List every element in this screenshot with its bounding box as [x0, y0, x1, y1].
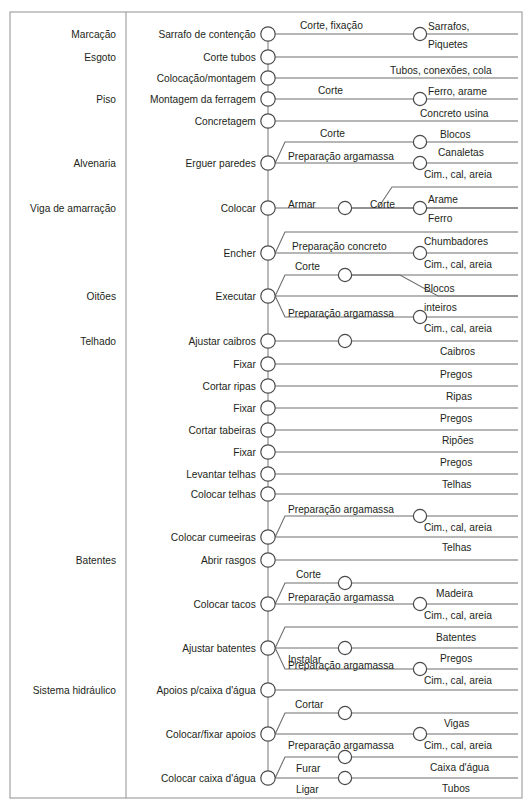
task-label: Cortar ripas [203, 381, 256, 392]
material-label: Ferro [428, 213, 453, 224]
operation-node[interactable] [338, 641, 351, 654]
task-node[interactable] [261, 487, 275, 501]
material-label: Pregos [440, 369, 472, 380]
material-label: Pregos [440, 413, 472, 424]
material-label: Tubos [442, 783, 470, 794]
material-label: Caibros [440, 346, 475, 357]
task-node[interactable] [261, 553, 275, 567]
task-node[interactable] [261, 50, 275, 64]
operation-node[interactable] [338, 201, 351, 214]
task-node[interactable] [261, 423, 275, 437]
category-label: Batentes [76, 555, 116, 566]
operation-label: Preparação argamassa [288, 308, 394, 319]
material-label: Cim., cal, areia [424, 169, 492, 180]
task-node[interactable] [261, 641, 275, 655]
task-node[interactable] [261, 401, 275, 415]
task-node[interactable] [261, 597, 275, 611]
operation-label: Corte [296, 569, 321, 580]
task-label: Colocar caixa d'água [161, 773, 256, 784]
operation-node[interactable] [413, 135, 426, 148]
task-node[interactable] [261, 771, 275, 785]
category-label: Esgoto [84, 52, 116, 63]
category-label: Oitões [87, 291, 116, 302]
task-node[interactable] [261, 114, 275, 128]
task-node[interactable] [261, 334, 275, 348]
operation-node[interactable] [413, 92, 426, 105]
task-node[interactable] [261, 246, 275, 260]
task-label: Montagem da ferragem [150, 94, 256, 105]
task-node[interactable] [261, 156, 275, 170]
category-label: Sistema hidráulico [33, 685, 117, 696]
task-node[interactable] [261, 683, 275, 697]
task-label: Ajustar caibros [188, 336, 255, 347]
operation-label: Preparação argamassa [288, 660, 394, 671]
material-label: Blocos [424, 283, 455, 294]
material-label: Batentes [436, 632, 476, 643]
task-node[interactable] [261, 379, 275, 393]
operation-label: Cortar [295, 699, 324, 710]
operation-label: Armar [288, 199, 316, 210]
material-label: Cim., cal, areia [424, 259, 492, 270]
material-label: Telhas [442, 542, 471, 553]
material-label: Blocos [440, 129, 471, 140]
task-label: Colocação/montagem [157, 73, 256, 84]
material-label: Cim., cal, areia [424, 323, 492, 334]
task-node[interactable] [261, 289, 275, 303]
material-label: Telhas [442, 479, 471, 490]
task-node[interactable] [261, 201, 275, 215]
operation-node[interactable] [338, 576, 351, 589]
category-label: Alvenaria [74, 158, 117, 169]
operation-node[interactable] [413, 27, 426, 40]
operation-node[interactable] [338, 706, 351, 719]
material-label: Pregos [440, 653, 472, 664]
operation-label: Preparação argamassa [288, 151, 394, 162]
branch-line [275, 275, 518, 296]
task-label: Encher [224, 248, 257, 259]
task-label: Cortar tabeiras [188, 425, 255, 436]
task-label: Executar [216, 291, 257, 302]
task-node[interactable] [261, 530, 275, 544]
task-node[interactable] [261, 27, 275, 41]
operation-label: Preparação argamassa [288, 504, 394, 515]
category-label: Viga de amarração [30, 203, 116, 214]
task-node[interactable] [261, 467, 275, 481]
operation-label: Preparação argamassa [288, 592, 394, 603]
operation-label: Preparação argamassa [288, 740, 394, 751]
task-label: Concretagem [195, 116, 256, 127]
operation-node[interactable] [338, 750, 351, 763]
task-label: Corte tubos [203, 52, 256, 63]
branch-line [275, 627, 518, 648]
process-flow-diagram: MarcaçãoEsgotoPisoAlvenariaViga de amarr… [0, 0, 531, 811]
operation-label: Corte [295, 261, 320, 272]
branch-line [275, 713, 518, 734]
material-label: Canaletas [438, 147, 484, 158]
category-label: Telhado [80, 336, 116, 347]
operation-node[interactable] [338, 334, 351, 347]
flow-diagram-canvas: MarcaçãoEsgotoPisoAlvenariaViga de amarr… [0, 0, 531, 811]
operation-node[interactable] [338, 268, 351, 281]
operation-label: Corte [370, 199, 395, 210]
category-label: Piso [96, 94, 116, 105]
task-label: Colocar [221, 203, 257, 214]
material-label: Sarrafos, [428, 21, 469, 32]
material-label: inteiros [424, 302, 457, 313]
task-label: Colocar tacos [194, 599, 256, 610]
task-node[interactable] [261, 71, 275, 85]
task-node[interactable] [261, 445, 275, 459]
task-node[interactable] [261, 92, 275, 106]
material-label: Vigas [444, 718, 469, 729]
task-node[interactable] [261, 727, 275, 741]
material-label: Caixa d'água [430, 762, 489, 773]
task-label: Levantar telhas [186, 469, 256, 480]
material-label: Pregos [440, 457, 472, 468]
task-node[interactable] [261, 357, 275, 371]
task-label: Ajustar batentes [182, 643, 256, 654]
operation-node[interactable] [413, 201, 426, 214]
operation-node[interactable] [338, 771, 351, 784]
task-label: Fixar [233, 359, 256, 370]
task-label: Colocar cumeeiras [171, 532, 256, 543]
material-label: Cim., cal, areia [424, 522, 492, 533]
material-label: Madeira [436, 588, 473, 599]
node-layer [261, 27, 427, 785]
material-label: Piquetes [428, 39, 468, 50]
